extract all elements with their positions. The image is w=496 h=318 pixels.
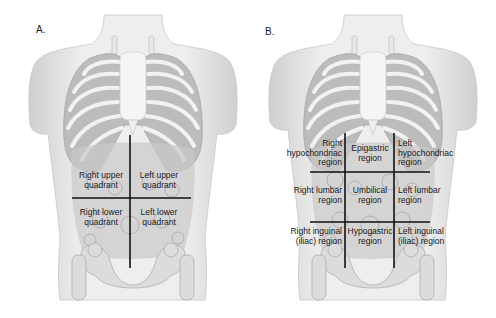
label-line: region	[345, 237, 395, 247]
label-left-upper-quadrant: Left upper quadrant	[132, 171, 186, 190]
label-left-lower-quadrant: Left lower quadrant	[132, 208, 186, 227]
panel-letter-b: B.	[265, 26, 274, 37]
label-right-lumbar: Right lumbar region	[272, 186, 342, 205]
label-right-upper-quadrant: Right upper quadrant	[74, 171, 128, 190]
sternum	[120, 52, 146, 120]
label-right-lower-quadrant: Right lower quadrant	[74, 208, 128, 227]
label-umbilical: Umbilical region	[347, 186, 393, 205]
label-left-lumbar: Left lumbar region	[398, 186, 468, 205]
panel-b-nine-regions: B. Right hypochondriac region Epigastric…	[248, 0, 496, 318]
label-right-inguinal: Right inguinal (iliac) region	[262, 227, 342, 246]
label-line: region	[272, 196, 342, 206]
label-line: region	[398, 158, 468, 168]
label-hypogastric: Hypogastric region	[345, 227, 395, 246]
label-epigastric: Epigastric region	[347, 144, 393, 163]
label-left-hypochondriac: Left hypochondriac region	[398, 139, 468, 168]
label-line: region	[347, 196, 393, 206]
label-line: region	[347, 154, 393, 164]
label-line: quadrant	[74, 181, 128, 191]
label-line: (iliac) region	[262, 237, 342, 247]
torso-illustration-a	[0, 0, 248, 318]
label-line: region	[272, 158, 342, 168]
label-line: region	[398, 196, 468, 206]
panel-letter-a: A.	[36, 24, 45, 35]
label-line: (iliac) region	[398, 237, 478, 247]
panel-a-four-quadrants: A. Right upper quadrant Left upper quadr…	[0, 0, 248, 318]
sternum	[360, 52, 386, 120]
label-line: quadrant	[132, 181, 186, 191]
label-left-inguinal: Left inguinal (iliac) region	[398, 227, 478, 246]
label-right-hypochondriac: Right hypochondriac region	[272, 139, 342, 168]
label-line: quadrant	[132, 218, 186, 228]
abdominal-organs	[71, 143, 194, 260]
label-line: quadrant	[74, 218, 128, 228]
